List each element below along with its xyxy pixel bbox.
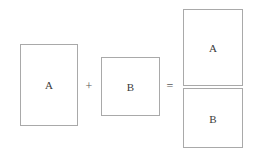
diagram-canvas: A + B = A B [0, 0, 256, 156]
result-cell-a-label: A [184, 43, 242, 54]
operand-block-a-label: A [21, 80, 77, 91]
equals-operator-icon: = [163, 80, 177, 92]
result-cell-a: A [183, 9, 243, 86]
result-composite-block: A B [183, 9, 243, 148]
operand-block-b: B [101, 57, 160, 116]
operand-block-a: A [20, 44, 78, 126]
result-cell-b: B [183, 88, 243, 148]
plus-operator-icon: + [82, 80, 96, 92]
operand-block-b-label: B [102, 82, 159, 93]
result-cell-b-label: B [184, 114, 242, 125]
